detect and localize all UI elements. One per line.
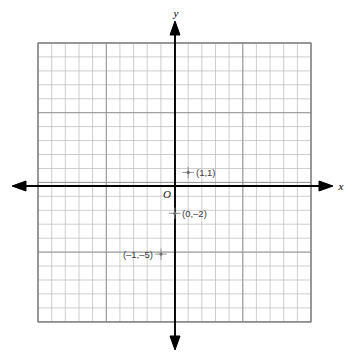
y-axis-label: y — [173, 7, 179, 19]
y-axis-arrow-down — [170, 336, 180, 350]
point-minus1-minus5-label: (–1,–5) — [123, 249, 153, 260]
point-0-minus2-marker — [173, 212, 176, 215]
coordinate-plane-svg: y x O (1,1) (0,–2) (–1,–5) — [0, 0, 354, 356]
point-minus1-minus5-marker — [159, 253, 162, 256]
point-0-minus2-label: (0,–2) — [182, 208, 207, 219]
point-minus1-minus5[interactable]: (–1,–5) — [123, 249, 167, 260]
point-1-1-label: (1,1) — [196, 167, 216, 178]
point-1-1-marker — [187, 171, 190, 174]
axes-group — [12, 21, 333, 350]
x-axis-label: x — [338, 180, 344, 192]
y-axis-arrow-up — [170, 21, 180, 35]
coordinate-plane-figure: y x O (1,1) (0,–2) (–1,–5) — [0, 0, 354, 356]
x-axis-arrow-left — [12, 181, 26, 191]
x-axis-arrow-right — [319, 181, 333, 191]
point-0-minus2[interactable]: (0,–2) — [169, 208, 207, 219]
origin-label: O — [163, 188, 171, 200]
